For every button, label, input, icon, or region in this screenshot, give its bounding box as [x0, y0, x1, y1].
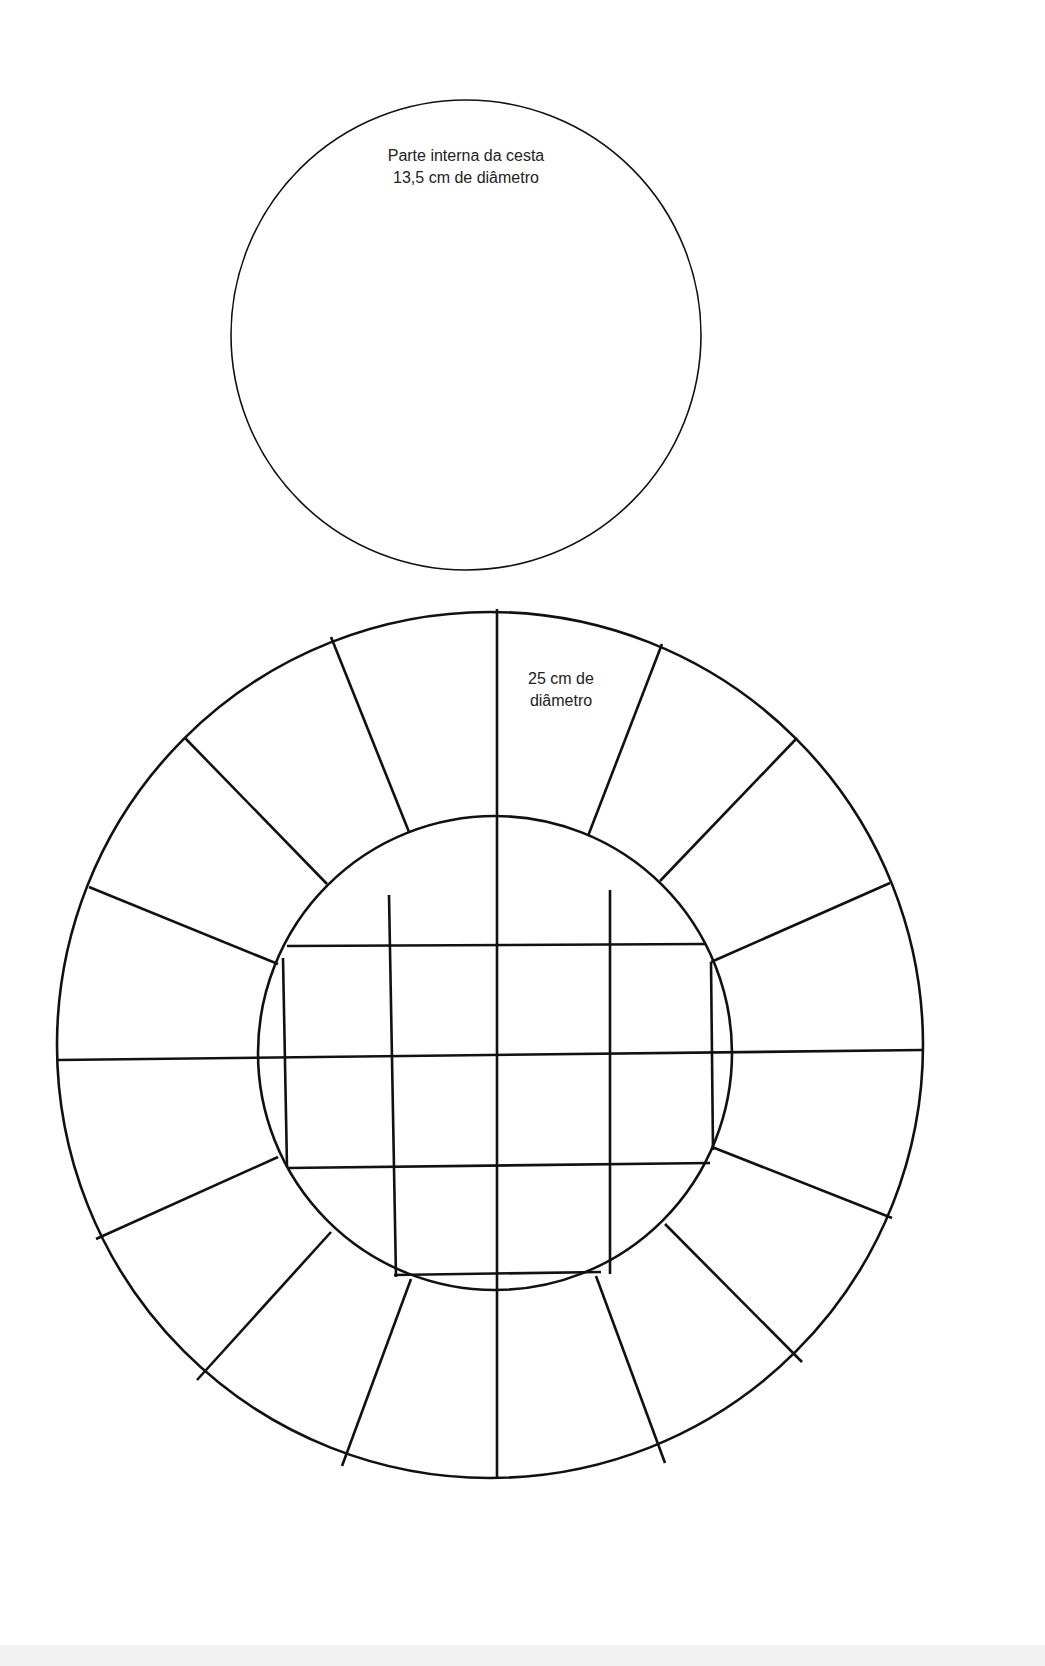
- inner-basket-label-line1: Parte interna da cesta: [356, 145, 576, 167]
- inner-basket-label: Parte interna da cesta 13,5 cm de diâmet…: [356, 145, 576, 189]
- template-diagram: Parte interna da cesta 13,5 cm de diâmet…: [0, 0, 1045, 1666]
- inner-basket-label-line2: 13,5 cm de diâmetro: [356, 167, 576, 189]
- diameter-label-line2: diâmetro: [506, 690, 616, 712]
- template-drawing: [0, 0, 1045, 1666]
- page-bottom-edge: [0, 1645, 1045, 1666]
- radial-spokes: [58, 609, 922, 1478]
- diameter-label: 25 cm de diâmetro: [506, 668, 616, 712]
- diameter-label-line1: 25 cm de: [506, 668, 616, 690]
